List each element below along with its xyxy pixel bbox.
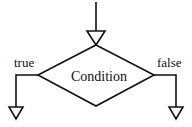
- false-branch-connector: [154, 75, 176, 107]
- decision-label: Condition: [71, 70, 127, 83]
- false-arrowhead-icon: [169, 107, 183, 119]
- true-arrowhead-icon: [9, 107, 23, 119]
- true-branch-label: true: [14, 56, 34, 69]
- true-branch-connector: [16, 75, 38, 107]
- flowchart-canvas: Condition true false: [0, 0, 192, 127]
- incoming-arrowhead-icon: [87, 31, 105, 45]
- false-branch-label: false: [157, 56, 182, 69]
